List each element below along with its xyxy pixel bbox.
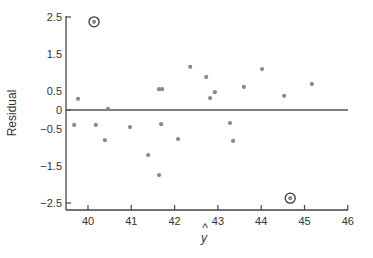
data-point <box>231 139 235 143</box>
y-tick-label: 0.5 <box>47 85 62 97</box>
hat-accent: ^ <box>202 221 208 235</box>
data-point <box>188 65 192 69</box>
y-tick-labels: 2.51.50.50−0.5−1.5−2.5 <box>40 11 62 209</box>
data-point <box>146 153 150 157</box>
axes <box>66 16 348 210</box>
y-tick-label: 0 <box>56 104 62 116</box>
x-axis-title: y ^ <box>200 221 208 245</box>
y-tick-label: −2.5 <box>40 197 62 209</box>
data-point <box>128 125 132 129</box>
y-tick-label: −0.5 <box>40 123 62 135</box>
data-point <box>260 67 264 71</box>
data-point <box>72 123 76 127</box>
data-point <box>103 138 107 142</box>
data-point <box>242 85 246 89</box>
y-axis-title: Residual <box>5 90 19 137</box>
data-point <box>106 107 110 111</box>
x-tick-label: 40 <box>82 215 94 227</box>
data-point <box>176 137 180 141</box>
x-tick-label: 43 <box>212 215 224 227</box>
y-tick-label: 1.5 <box>47 48 62 60</box>
data-point <box>208 96 212 100</box>
y-tick-label: −1.5 <box>40 160 62 172</box>
data-point <box>92 20 96 24</box>
y-tick-label: 2.5 <box>47 11 62 23</box>
data-point <box>213 90 217 94</box>
data-point <box>76 97 80 101</box>
data-point <box>160 87 164 91</box>
data-point <box>288 196 292 200</box>
data-point <box>204 75 208 79</box>
data-point <box>310 82 314 86</box>
data-point <box>228 121 232 125</box>
tick-marks <box>66 17 348 210</box>
x-tick-label: 46 <box>342 215 354 227</box>
residual-plot: 40414243444546 2.51.50.50−0.5−1.5−2.5 Re… <box>0 0 373 258</box>
x-tick-labels: 40414243444546 <box>82 215 354 227</box>
x-tick-label: 44 <box>255 215 267 227</box>
x-tick-label: 42 <box>168 215 180 227</box>
x-tick-label: 41 <box>125 215 137 227</box>
data-point <box>159 122 163 126</box>
data-point <box>157 173 161 177</box>
x-tick-label: 45 <box>298 215 310 227</box>
data-point <box>94 123 98 127</box>
data-point <box>282 94 286 98</box>
